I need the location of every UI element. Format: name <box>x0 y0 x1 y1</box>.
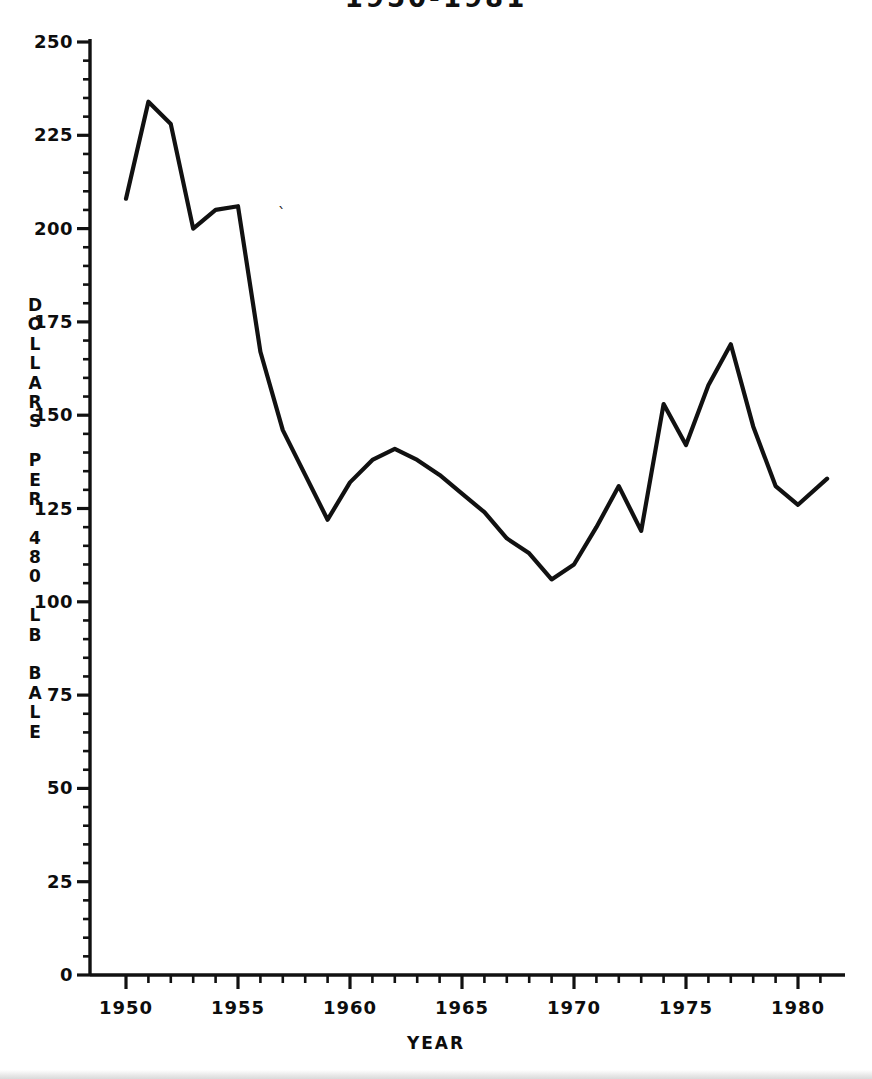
x-axis-tick-label: 1980 <box>753 997 843 1018</box>
y-axis-tick-label: 75 <box>3 684 73 705</box>
y-axis-tick-label: 0 <box>3 964 73 985</box>
y-axis-tick-label: 225 <box>3 124 73 145</box>
y-axis-tick-label: 200 <box>3 218 73 239</box>
x-axis-tick-label: 1965 <box>417 997 507 1018</box>
data-series-line <box>126 102 827 580</box>
y-axis-ticks <box>77 42 90 975</box>
x-axis-tick-label: 1950 <box>81 997 171 1018</box>
y-axis-tick-label: 100 <box>3 591 73 612</box>
y-axis-tick-label: 150 <box>3 404 73 425</box>
chart-canvas: 1950-1981 DOLLARSPER480LBBALE YEAR 02550… <box>0 0 872 1079</box>
x-axis-tick-label: 1975 <box>641 997 731 1018</box>
x-axis-tick-label: 1955 <box>193 997 283 1018</box>
y-axis-tick-label: 25 <box>3 871 73 892</box>
plot-area <box>0 0 872 1079</box>
scan-artifact-mark: ` <box>278 210 287 219</box>
scan-edge-smudge <box>0 1070 872 1079</box>
x-axis-ticks <box>126 975 820 989</box>
y-axis-tick-label: 250 <box>3 31 73 52</box>
x-axis-tick-label: 1960 <box>305 997 395 1018</box>
x-axis-tick-label: 1970 <box>529 997 619 1018</box>
y-axis-tick-label: 125 <box>3 498 73 519</box>
y-axis-tick-label: 175 <box>3 311 73 332</box>
axis-lines <box>90 39 845 975</box>
y-axis-tick-label: 50 <box>3 777 73 798</box>
